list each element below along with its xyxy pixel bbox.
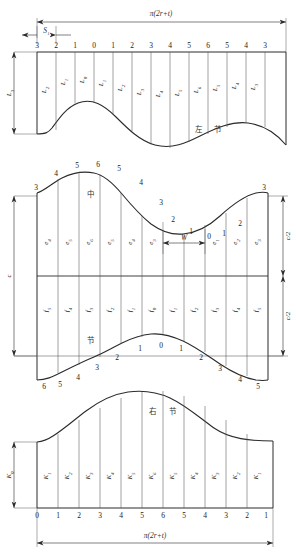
curve-number: 1 bbox=[179, 344, 183, 353]
top-number: 2 bbox=[130, 41, 134, 50]
curve-number: 2 bbox=[115, 353, 119, 362]
top-number: 3 bbox=[35, 41, 39, 50]
bottom-number: 5 bbox=[182, 511, 186, 520]
ordinate-label: e6 bbox=[84, 239, 94, 245]
drawing-canvas: π(2r+t) S₁ L3 bbox=[0, 0, 296, 558]
top-number: 3 bbox=[263, 41, 267, 50]
dimension-l3-height: L3 bbox=[5, 52, 37, 134]
dimension-k0-height: K0 bbox=[5, 442, 37, 508]
curve-number: 3 bbox=[34, 183, 38, 192]
ordinate-label: e5 bbox=[105, 239, 115, 245]
panel-right-section: K0 bbox=[5, 391, 273, 547]
dimension-c-height: c bbox=[5, 196, 37, 356]
curve-number: 5 bbox=[58, 380, 62, 389]
ordinate-label: K2 bbox=[63, 472, 73, 481]
ordinate-label: f4 bbox=[231, 307, 241, 312]
ordinate-label: L3 bbox=[135, 88, 145, 96]
panel-left-ordinate-labels: L2 L1 L0 L1 L2 L3 L4 L5 L6 L5 L4 L3 bbox=[40, 76, 259, 98]
ordinate-label: K4 bbox=[105, 472, 115, 481]
curve-number: 3 bbox=[95, 363, 99, 372]
curve-number: 5 bbox=[117, 164, 121, 173]
ordinate-label: L5 bbox=[173, 89, 183, 97]
ordinate-label: f2 bbox=[189, 307, 199, 312]
ordinate-label: f5 bbox=[252, 307, 262, 312]
panel-left-top-numbers: 3 2 1 0 1 2 3 4 5 6 5 4 3 bbox=[35, 41, 267, 50]
technical-drawing-sheet: π(2r+t) S₁ L3 bbox=[0, 0, 296, 558]
curve-number: 2 bbox=[238, 219, 242, 228]
top-number: 6 bbox=[206, 41, 210, 50]
curve-number: 5 bbox=[256, 382, 260, 391]
panel-middle-top-numbers: 3 4 5 6 5 4 3 2 1 0 1 2 3 bbox=[34, 160, 266, 241]
dimension-l3-height-label: L3 bbox=[5, 89, 15, 97]
ordinate-label: L2 bbox=[40, 86, 50, 94]
panel-middle-lower-labels: f5 f4 f3 f2 f1 f0 f1 f2 f3 f4 f5 bbox=[42, 307, 262, 312]
bottom-number: 4 bbox=[203, 511, 207, 520]
top-number: 4 bbox=[168, 41, 172, 50]
ordinate-label: L3 bbox=[249, 83, 259, 91]
ordinate-label: K3 bbox=[84, 472, 94, 481]
ordinate-label: L2 bbox=[116, 84, 126, 92]
ordinate-label: e2 bbox=[231, 239, 241, 245]
bottom-number: 6 bbox=[161, 511, 165, 520]
ordinate-label: f4 bbox=[63, 307, 73, 312]
ordinate-label: K1 bbox=[252, 472, 262, 480]
panel-middle-outline bbox=[14, 172, 283, 380]
panel-middle-upper-labels: e4 e5 e6 e5 e4 e3 e1 e2 e3 bbox=[42, 239, 262, 245]
curve-number: 2 bbox=[199, 353, 203, 362]
ordinate-label: f5 bbox=[42, 307, 52, 312]
curve-number: 3 bbox=[218, 364, 222, 373]
ordinate-label: e4 bbox=[126, 239, 136, 245]
top-number: 5 bbox=[225, 41, 229, 50]
top-number: 3 bbox=[149, 41, 153, 50]
ordinate-label: f0 bbox=[147, 307, 157, 312]
panel-middle-section: c c/2 c/2 bbox=[5, 160, 292, 391]
ordinate-label: K1 bbox=[42, 472, 52, 480]
ordinate-label: e1 bbox=[210, 239, 220, 245]
top-number: 2 bbox=[54, 41, 58, 50]
curve-number: 3 bbox=[262, 183, 266, 192]
top-number: 4 bbox=[244, 41, 248, 50]
dimension-k0-label: K0 bbox=[5, 471, 15, 480]
ordinate-label: L5 bbox=[211, 84, 221, 92]
bottom-number: 4 bbox=[119, 511, 123, 520]
panel-left-section: π(2r+t) S₁ L3 bbox=[5, 9, 286, 148]
top-number: 1 bbox=[111, 41, 115, 50]
ordinate-label: K2 bbox=[231, 472, 241, 481]
cjk-char-section: 节 bbox=[214, 125, 222, 134]
ordinate-label: K5 bbox=[126, 472, 136, 481]
ordinate-label: f2 bbox=[105, 307, 115, 312]
bottom-number: 5 bbox=[140, 511, 144, 520]
top-number: 1 bbox=[73, 41, 77, 50]
cjk-char-section-middle: 节 bbox=[87, 336, 95, 345]
dimension-w-label: W bbox=[181, 233, 188, 242]
ordinate-label: K3 bbox=[210, 472, 220, 481]
curve-number: 6 bbox=[96, 160, 100, 169]
curve-number: 1 bbox=[138, 344, 142, 353]
curve-number: 4 bbox=[238, 375, 242, 384]
cjk-char-right: 右 bbox=[149, 406, 157, 416]
curve-number: 4 bbox=[76, 373, 80, 382]
curve-number: 4 bbox=[139, 178, 143, 187]
ordinate-label: f1 bbox=[126, 308, 136, 312]
ordinate-label: e3 bbox=[147, 239, 157, 245]
curve-number: 5 bbox=[75, 161, 79, 170]
dimension-c2-lower-label: c/2 bbox=[284, 311, 292, 320]
ordinate-label: e5 bbox=[63, 239, 73, 245]
dimension-s1: S₁ bbox=[22, 26, 71, 44]
curve-number: 6 bbox=[42, 382, 46, 391]
ordinate-label: K4 bbox=[189, 472, 199, 481]
dimension-overall-bottom: π(2r+t) bbox=[37, 508, 273, 547]
bottom-number: 2 bbox=[245, 511, 249, 520]
ordinate-label: L1 bbox=[97, 80, 107, 87]
ordinate-label: L6 bbox=[192, 86, 202, 94]
bottom-number: 3 bbox=[224, 511, 228, 520]
ordinate-label: f3 bbox=[84, 307, 94, 312]
curve-number: 4 bbox=[54, 169, 58, 178]
ordinate-label: L4 bbox=[154, 90, 164, 98]
cjk-char-middle: 中 bbox=[87, 189, 94, 199]
ordinate-label: K5 bbox=[168, 472, 178, 481]
ordinate-label: e3 bbox=[252, 239, 262, 245]
cjk-char-left: 左 bbox=[195, 124, 203, 134]
ordinate-label: L0 bbox=[78, 76, 88, 84]
ordinate-label: f3 bbox=[210, 307, 220, 312]
